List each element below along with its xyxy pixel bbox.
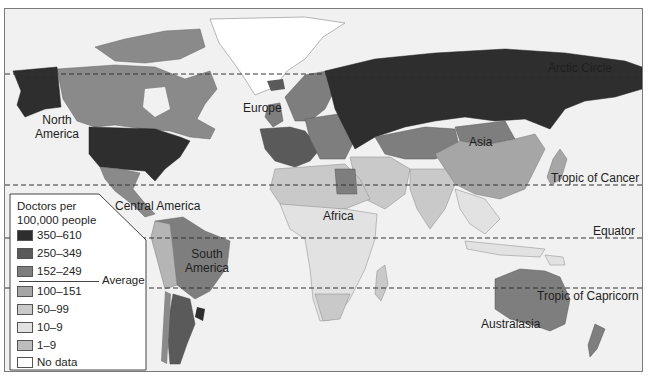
average-divider xyxy=(19,281,99,282)
uruguay xyxy=(195,307,205,321)
indonesia xyxy=(465,241,545,257)
tropic-of-cancer-label: Tropic of Cancer xyxy=(551,171,639,185)
arctic-archipelago xyxy=(95,29,205,63)
world-map: Arctic Circle Tropic of Cancer Equator T… xyxy=(4,8,643,372)
canada xyxy=(57,65,217,139)
legend-item: 10–9 xyxy=(17,320,63,334)
legend-item: 250–349 xyxy=(17,246,82,260)
europe-label: Europe xyxy=(243,101,282,115)
legend-swatch xyxy=(17,286,33,297)
new-zealand xyxy=(588,324,605,357)
legend-item: 100–151 xyxy=(17,284,82,298)
tropic-of-capricorn-label: Tropic of Capricorn xyxy=(537,289,639,303)
legend-swatch xyxy=(17,230,33,241)
equator-label: Equator xyxy=(593,224,635,238)
legend-swatch xyxy=(17,357,33,368)
legend-swatch xyxy=(17,340,33,351)
arctic-circle-label: Arctic Circle xyxy=(548,61,612,75)
average-label: Average xyxy=(102,274,145,286)
papua-new-guinea xyxy=(545,255,565,265)
madagascar xyxy=(375,265,388,301)
legend-item: 350–610 xyxy=(17,228,82,242)
africa-label: Africa xyxy=(323,209,354,223)
south-america-label: South America xyxy=(185,247,229,275)
legend-swatch xyxy=(17,248,33,259)
legend-item: 50–99 xyxy=(17,302,69,316)
legend-swatch xyxy=(17,322,33,333)
argentina xyxy=(167,294,195,364)
australasia-label: Australasia xyxy=(481,317,540,331)
north-america-label: North America xyxy=(35,113,79,141)
legend-title: Doctors per 100,000 people xyxy=(17,199,96,227)
egypt xyxy=(335,169,357,194)
legend-item: 1–9 xyxy=(17,338,56,352)
india xyxy=(410,169,455,229)
legend-swatch xyxy=(17,304,33,315)
legend-swatch xyxy=(17,266,33,277)
legend-item: No data xyxy=(17,355,77,369)
legend-item: 152–249 xyxy=(17,264,82,278)
asia-label: Asia xyxy=(469,135,492,149)
legend: Doctors per 100,000 people 350–610 250–3… xyxy=(9,193,147,371)
